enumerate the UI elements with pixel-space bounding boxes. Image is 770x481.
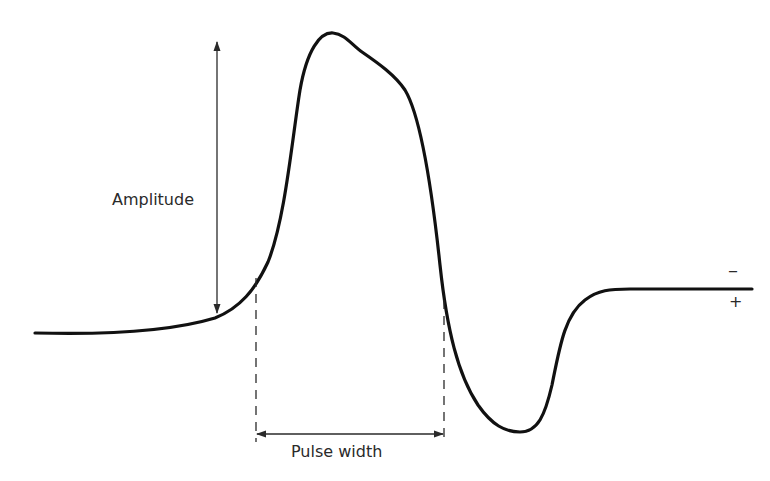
pulse-waveform [35,33,752,432]
pulse-width-label: Pulse width [291,442,382,461]
pulse-diagram-svg [0,0,770,481]
amplitude-label: Amplitude [112,190,194,209]
minus-sign: – [728,258,738,282]
plus-sign: + [729,292,742,311]
